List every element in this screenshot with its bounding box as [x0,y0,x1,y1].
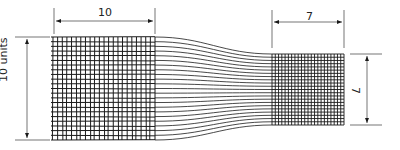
diagram-canvas [0,0,400,150]
right-width-label: 7 [306,10,313,23]
right-height-label: 7 [349,87,362,94]
left-width-label: 10 [98,6,112,19]
left-height-label: 10 units [0,37,10,82]
